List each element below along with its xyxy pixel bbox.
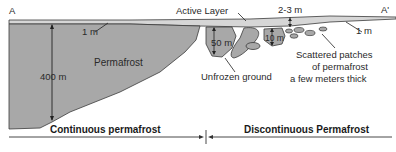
continuous-zone-label: Continuous permafrost xyxy=(50,125,161,135)
permafrost-patch-small xyxy=(246,43,260,50)
active-layer-label: Active Layer xyxy=(176,6,228,16)
scattered-patches-label-1: Scattered patches xyxy=(296,50,373,60)
discontinuous-zone-label: Discontinuous Permafrost xyxy=(244,125,369,135)
leader-scattered xyxy=(322,34,335,48)
continuous-permafrost-body xyxy=(9,24,200,129)
scattered-patch xyxy=(305,30,315,35)
scattered-patch xyxy=(294,28,304,33)
depth-10m-label: 10 m xyxy=(265,34,284,43)
scattered-patch xyxy=(286,29,293,33)
scattered-patch xyxy=(319,27,327,31)
section-label-a: A xyxy=(9,6,15,16)
permafrost-label: Permafrost xyxy=(94,58,143,68)
active-depth-1m-left-label: 1 m xyxy=(82,27,98,37)
scattered-patch xyxy=(290,34,298,38)
active-depth-2-3m-label: 2-3 m xyxy=(278,5,302,15)
depth-400m-label: 400 m xyxy=(40,72,66,82)
scattered-patches-label-2: of permafrost xyxy=(312,62,368,72)
section-label-a-prime: A' xyxy=(381,5,389,15)
permafrost-cross-section: A A' Active Layer 2-3 m 1 m 1 m Permafro… xyxy=(0,0,396,152)
depth-50m-label: 50 m xyxy=(211,38,232,48)
leader-unfrozen xyxy=(225,58,235,72)
unfrozen-ground-label: Unfrozen ground xyxy=(201,72,272,82)
scattered-patches-label-3: a few meters thick xyxy=(290,74,367,84)
active-depth-1m-right-label: 1 m xyxy=(356,26,372,36)
arrow-head-right xyxy=(199,135,204,139)
